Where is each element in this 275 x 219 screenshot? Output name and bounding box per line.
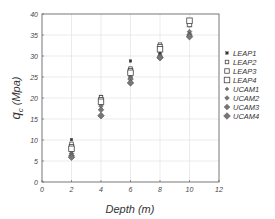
legend-label: UCAM3 (233, 103, 260, 112)
legend-item-leap3: LEAP3 (225, 67, 257, 76)
x-tick-label: 6 (129, 186, 133, 193)
legend-item-ucam2: UCAM2 (225, 94, 260, 103)
y-axis-label-unit: (Mpa) (10, 76, 22, 105)
legend-label: LEAP4 (233, 76, 256, 85)
legend-item-ucam4: UCAM4 (224, 112, 260, 121)
legend-label: LEAP1 (233, 49, 256, 58)
y-tick-label: 40 (30, 11, 38, 18)
y-tick-label: 5 (34, 158, 38, 165)
x-axis-label: Depth (m) (106, 203, 155, 215)
legend-label: UCAM2 (233, 94, 260, 103)
x-tick-label: 12 (215, 186, 223, 193)
x-tick-label: 2 (69, 186, 74, 193)
legend-item-leap2: LEAP2 (225, 58, 257, 67)
x-tick-label: 4 (99, 186, 103, 193)
legend-item-ucam1: UCAM1 (225, 85, 259, 94)
svg-text:qc(Mpa): qc(Mpa) (8, 76, 25, 119)
x-tick-label: 10 (186, 186, 194, 193)
y-axis-label-sub: c (16, 108, 25, 112)
legend-label: LEAP3 (233, 67, 257, 76)
y-tick-label: 0 (34, 179, 38, 186)
legend-label: UCAM4 (233, 112, 259, 121)
legend-item-leap1: LEAP1 (226, 49, 257, 58)
legend-item-ucam3: UCAM3 (224, 103, 260, 112)
y-tick-label: 15 (30, 116, 38, 123)
chart-canvas: 0246810120510152025303540 LEAP1LEAP2LEAP… (0, 0, 275, 219)
y-tick-label: 25 (29, 74, 38, 81)
y-tick-label: 35 (30, 32, 38, 39)
x-tick-label: 0 (40, 186, 44, 193)
y-tick-label: 10 (30, 137, 38, 144)
y-tick-label: 20 (29, 95, 38, 102)
legend: LEAP1LEAP2LEAP3LEAP4UCAM1UCAM2UCAM3UCAM4 (224, 49, 260, 121)
scatter-chart: 0246810120510152025303540 LEAP1LEAP2LEAP… (0, 0, 275, 219)
x-tick-label: 8 (158, 186, 162, 193)
legend-item-leap4: LEAP4 (224, 76, 256, 85)
legend-label: LEAP2 (233, 58, 257, 67)
y-tick-label: 30 (30, 53, 38, 60)
legend-label: UCAM1 (233, 85, 259, 94)
y-axis-label: qc(Mpa) (8, 76, 25, 119)
axis-ticks: 0246810120510152025303540 (29, 11, 223, 194)
